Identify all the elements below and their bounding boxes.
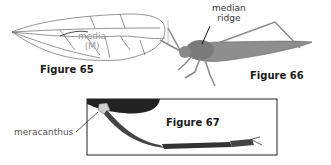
annotation-meracanthus: meracanthus — [14, 127, 73, 137]
figure-67-label: Figure 67 — [166, 117, 220, 128]
figure-66-label: Figure 66 — [250, 70, 304, 81]
annotation-median-ridge-line2: ridge — [212, 13, 246, 23]
annotation-media-line2: (M) — [78, 41, 106, 51]
figure-65-label: Figure 65 — [40, 64, 94, 75]
figure-artwork — [0, 0, 331, 165]
annotation-media-line1: media — [78, 31, 106, 41]
annotation-median-ridge-line1: median — [212, 3, 246, 13]
annotation-media: media (M) — [78, 31, 106, 51]
annotation-median-ridge: median ridge — [212, 3, 246, 23]
